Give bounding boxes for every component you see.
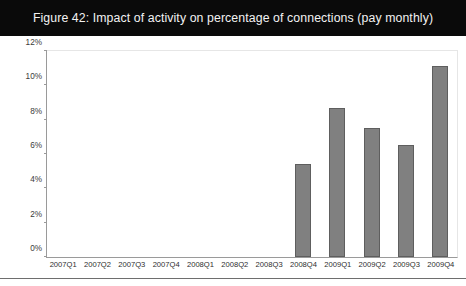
bar-slot	[389, 51, 423, 257]
y-axis-label: 10%	[26, 72, 42, 81]
x-axis-label: 2007Q3	[115, 260, 149, 269]
bar-slot	[355, 51, 389, 257]
y-axis-label: 4%	[30, 175, 42, 184]
y-axis-label: 12%	[26, 38, 42, 47]
x-axis: 2007Q12007Q22007Q32007Q42008Q12008Q22008…	[46, 260, 458, 269]
bar-slot	[423, 51, 457, 257]
plot-area: 0%2%4%6%8%10%12%	[46, 50, 458, 258]
bar-2009Q4[interactable]	[432, 66, 448, 257]
bar-2008Q4[interactable]	[295, 164, 311, 257]
x-axis-label: 2008Q2	[218, 260, 252, 269]
bar-slot	[252, 51, 286, 257]
x-axis-label: 2007Q2	[80, 260, 114, 269]
bar-2009Q3[interactable]	[398, 145, 414, 257]
x-axis-label: 2008Q4	[286, 260, 320, 269]
x-axis-label: 2008Q3	[252, 260, 286, 269]
bar-2009Q2[interactable]	[364, 128, 380, 257]
bar-slot	[184, 51, 218, 257]
x-axis-label: 2008Q1	[183, 260, 217, 269]
x-axis-label: 2009Q3	[389, 260, 423, 269]
bar-slot	[81, 51, 115, 257]
x-axis-label: 2009Q1	[321, 260, 355, 269]
bars-layer	[47, 51, 457, 257]
bar-2009Q1[interactable]	[329, 108, 345, 257]
y-axis-label: 8%	[30, 106, 42, 115]
x-axis-label: 2009Q2	[355, 260, 389, 269]
x-axis-label: 2007Q4	[149, 260, 183, 269]
page-title: Figure 42: Impact of activity on percent…	[33, 11, 433, 26]
bar-slot	[320, 51, 354, 257]
bar-slot	[286, 51, 320, 257]
y-axis-label: 6%	[30, 141, 42, 150]
page-divider	[0, 278, 466, 279]
bar-slot	[47, 51, 81, 257]
y-axis-label: 2%	[30, 209, 42, 218]
bar-slot	[218, 51, 252, 257]
bar-chart: 0%2%4%6%8%10%12% 2007Q12007Q22007Q32007Q…	[0, 36, 466, 272]
figure-title-banner: Figure 42: Impact of activity on percent…	[0, 0, 466, 36]
bar-slot	[150, 51, 184, 257]
bar-slot	[115, 51, 149, 257]
y-axis-label: 0%	[30, 244, 42, 253]
x-axis-label: 2007Q1	[46, 260, 80, 269]
x-axis-label: 2009Q4	[424, 260, 458, 269]
